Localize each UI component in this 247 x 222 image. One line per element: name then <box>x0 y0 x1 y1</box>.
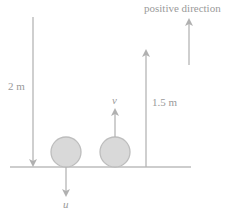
drop-height-label: 2 m <box>8 80 25 92</box>
positive-direction-label: positive direction <box>144 2 221 14</box>
diagram-canvas <box>0 0 247 222</box>
ball-falling <box>51 137 81 167</box>
ball-rebounding <box>100 137 130 167</box>
up-velocity-label: v <box>112 94 117 106</box>
down-velocity-label: u <box>63 198 69 210</box>
rebound-height-label: 1.5 m <box>152 96 177 108</box>
